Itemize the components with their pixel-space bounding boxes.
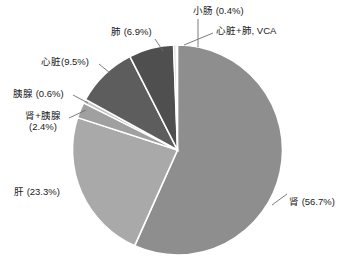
pie-label-shen: 肾 (56.7%) [289,196,335,207]
pie-label-gan: 肝 (23.3%) [14,186,60,197]
pie-chart: 小肠 (0.4%) 心脏+肺, VCA 肺 (6.9%) 心脏(9.5%) 胰腺… [0,0,350,275]
pie-label-xiaochang: 小肠 (0.4%) [193,5,244,16]
pie-label-yixian: 胰腺 (0.6%) [13,88,64,99]
pie-label-xinzang: 心脏(9.5%) [41,56,89,67]
pie-label-shen-yixian: 肾+胰腺 (2.4%) [10,110,76,132]
pie-label-xinzang-fei-vca: 心脏+肺, VCA [216,25,276,36]
pie-label-fei: 肺 (6.9%) [111,26,152,37]
pie-label-shen-yixian-percent: (2.4%) [29,121,57,132]
pie-label-shen-yixian-name: 肾+胰腺 [25,110,61,121]
pie-slices [73,45,283,255]
leader-line-xinzang-fei-vca [184,33,213,45]
pie-chart-svg [0,0,350,275]
leader-line-xinzang [99,64,110,73]
leader-line-shen [272,194,287,205]
